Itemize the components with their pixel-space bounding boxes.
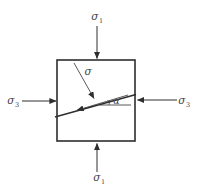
sigma1-bottom-label-sub: 1 bbox=[101, 177, 105, 185]
principal-stress-element-diagram: σ1 σ1 σ3 σ3 σ α bbox=[0, 0, 198, 193]
failure-plane-line bbox=[55, 95, 136, 118]
alpha-angle-label: α bbox=[113, 96, 119, 106]
resultant-stress-label: σ bbox=[84, 66, 91, 77]
stress-element-square bbox=[57, 60, 135, 141]
shear-direction-arrow bbox=[77, 95, 128, 110]
sigma1-top-label: σ1 bbox=[91, 11, 102, 22]
sigma1-bottom-label-base: σ bbox=[93, 171, 100, 183]
sigma3-left-label-sub: 3 bbox=[15, 100, 19, 108]
diagram-linework bbox=[0, 0, 198, 193]
sigma3-right-label-base: σ bbox=[178, 94, 185, 106]
sigma3-left-label-base: σ bbox=[7, 94, 14, 106]
sigma3-left-label: σ3 bbox=[7, 95, 18, 106]
sigma1-bottom-label: σ1 bbox=[93, 172, 104, 183]
sigma1-top-label-sub: 1 bbox=[99, 16, 103, 24]
resultant-stress-label-base: σ bbox=[84, 65, 91, 77]
alpha-angle-label-base: α bbox=[113, 95, 119, 106]
sigma1-top-label-base: σ bbox=[91, 10, 98, 22]
sigma3-right-label: σ3 bbox=[178, 95, 189, 106]
sigma3-right-label-sub: 3 bbox=[186, 100, 190, 108]
